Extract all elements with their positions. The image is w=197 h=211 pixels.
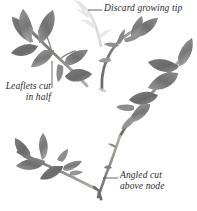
rose-cutting-figure: Discard growing tip Leaflets cut in half… — [0, 0, 197, 211]
label-leaflets-cut-line1: Leaflets cut — [0, 81, 51, 92]
label-angled-cut-line1: Angled cut — [120, 170, 197, 181]
label-angled-cut-above-node: Angled cut above node — [120, 170, 197, 192]
label-discard-growing-tip: Discard growing tip — [104, 3, 182, 14]
label-discard-growing-tip-text: Discard growing tip — [104, 3, 182, 14]
label-leaflets-cut-in-half: Leaflets cut in half — [0, 81, 51, 103]
label-angled-cut-line2: above node — [120, 181, 197, 192]
label-leaflets-cut-line2: in half — [0, 92, 51, 103]
